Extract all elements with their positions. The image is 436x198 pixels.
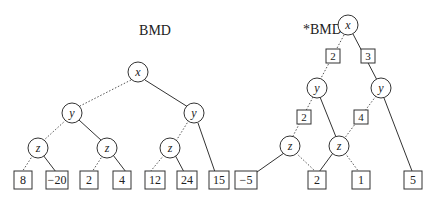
svg-text:2: 2 — [314, 173, 320, 187]
star-bmd-leaf: 5 — [404, 171, 422, 189]
bmd-node-y1: y — [62, 103, 82, 123]
svg-text:15: 15 — [213, 173, 225, 187]
svg-text:z: z — [35, 141, 41, 155]
svg-text:4: 4 — [119, 173, 125, 187]
star-bmd-title: *BMD — [303, 22, 342, 37]
star-bmd-node-x: x — [338, 15, 358, 35]
edge-z2-leaf2 — [92, 155, 103, 172]
svg-text:x: x — [344, 18, 351, 32]
star-bmd-leaf: 1 — [352, 171, 370, 189]
edge-weight: 2 — [297, 110, 311, 124]
star-bmd-diagram: *BMD 2 3 2 4 x — [235, 15, 422, 189]
star-bmd-node-y2: y — [371, 78, 391, 98]
svg-text:y: y — [190, 106, 197, 120]
bmd-node-z3: z — [160, 138, 180, 158]
svg-text:5: 5 — [410, 173, 416, 187]
edge-z3-leaf24 — [175, 155, 184, 172]
bmd-leaf: 12 — [145, 171, 165, 189]
edge-z1-leaf-5 — [257, 153, 284, 172]
svg-text:8: 8 — [20, 173, 26, 187]
star-bmd-node-y1: y — [307, 78, 327, 98]
edge-z3-leaf12 — [150, 155, 164, 172]
edge-y2-z3-low — [176, 120, 189, 141]
edge-weight: 3 — [361, 49, 375, 63]
bmd-leaf: 8 — [14, 171, 32, 189]
svg-text:2: 2 — [330, 50, 336, 62]
bmd-node-x: x — [128, 62, 148, 82]
bmd-leaf: −20 — [46, 171, 68, 189]
svg-text:2: 2 — [86, 173, 92, 187]
svg-text:z: z — [167, 141, 173, 155]
svg-text:y: y — [377, 81, 384, 95]
edge-z2-leaf2 — [319, 153, 333, 172]
svg-text:3: 3 — [365, 50, 371, 62]
svg-text:z: z — [336, 139, 342, 153]
bmd-node-y2: y — [184, 103, 204, 123]
edge-y2-leaf15-high — [198, 123, 215, 172]
bmd-leaf: 2 — [80, 171, 98, 189]
svg-text:24: 24 — [181, 173, 193, 187]
svg-text:4: 4 — [358, 111, 364, 123]
bmd-leaf: 15 — [209, 171, 229, 189]
edge-z2-leaf4 — [113, 155, 126, 172]
svg-text:y: y — [68, 106, 75, 120]
edge-y1-z2-high — [79, 120, 102, 141]
svg-text:x: x — [134, 65, 141, 79]
edge-z2-leaf1 — [345, 153, 359, 172]
edge-y1-z1-low — [43, 120, 66, 141]
svg-text:z: z — [104, 141, 110, 155]
bmd-node-z2: z — [97, 138, 117, 158]
edge-x-y2-high — [145, 80, 188, 107]
edge-z1-leaf8 — [22, 155, 33, 172]
bmd-diagram-canvas: BMD x y y z z — [0, 0, 436, 198]
star-bmd-node-z1: z — [280, 136, 300, 156]
svg-text:−5: −5 — [240, 173, 253, 187]
edge-weight: 2 — [326, 49, 340, 63]
star-bmd-leaf: 2 — [308, 171, 326, 189]
svg-text:1: 1 — [358, 173, 364, 187]
svg-text:z: z — [287, 139, 293, 153]
bmd-node-z1: z — [28, 138, 48, 158]
edge-y2-leaf5-high — [384, 98, 412, 171]
svg-text:y: y — [313, 81, 320, 95]
bmd-leaf: 4 — [113, 171, 131, 189]
bmd-diagram: BMD x y y z z — [14, 23, 229, 189]
edge-z1-leaf2 — [296, 153, 316, 172]
edge-y1-z2-high — [320, 97, 336, 137]
star-bmd-node-z2: z — [329, 136, 349, 156]
bmd-title: BMD — [139, 23, 171, 38]
bmd-leaf: 24 — [177, 171, 197, 189]
edge-z1-leaf-20 — [43, 155, 56, 172]
svg-text:12: 12 — [149, 173, 161, 187]
svg-text:2: 2 — [301, 111, 307, 123]
edge-x-y1-low — [78, 80, 131, 107]
star-bmd-leaf: −5 — [235, 171, 257, 189]
edge-weight: 4 — [354, 110, 368, 124]
svg-text:−20: −20 — [48, 173, 67, 187]
